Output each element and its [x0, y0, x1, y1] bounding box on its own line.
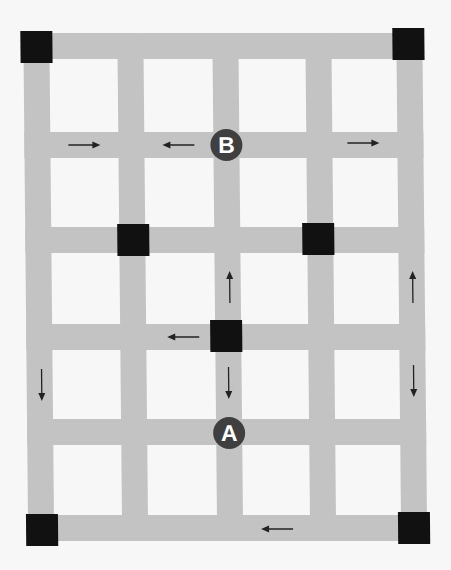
street-grid-map: B A: [0, 0, 451, 570]
arrow-down-icon: [36, 368, 48, 402]
arrow-up-icon: [224, 270, 236, 304]
node-top-right: [392, 28, 424, 60]
node-top-left: [20, 31, 52, 63]
marker-a: A: [213, 417, 245, 449]
node-mid-right: [302, 223, 334, 255]
road-vertical-2: [117, 33, 148, 541]
arrow-down-icon: [223, 366, 235, 400]
arrow-down-icon: [407, 364, 419, 398]
arrow-up-icon: [407, 270, 419, 304]
arrow-left-icon: [166, 331, 200, 343]
node-mid-left: [117, 224, 149, 256]
node-center: [210, 320, 242, 352]
arrow-right-icon: [346, 137, 380, 149]
arrow-left-icon: [260, 523, 294, 535]
road-vertical-4: [305, 33, 336, 541]
node-bottom-right: [398, 512, 430, 544]
road-vertical-1: [23, 33, 54, 541]
arrow-left-icon: [161, 139, 195, 151]
arrow-right-icon: [67, 139, 101, 151]
marker-b: B: [210, 129, 242, 161]
node-bottom-left: [26, 514, 58, 546]
